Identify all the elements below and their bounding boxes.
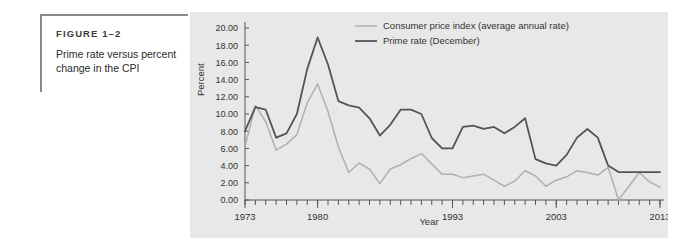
legend-label: Prime rate (December) [383,35,480,46]
y-axis-tick-label: 2.00 [220,178,238,188]
figure-number-label: FIGURE 1–2 [56,28,194,39]
y-axis-tick-label: 18.00 [215,41,238,51]
caption-left-rule [40,14,42,92]
x-axis-title: Year [190,216,668,227]
figure-title-text: Prime rate versus percent change in the … [56,47,194,75]
y-axis-tick-label: 6.00 [220,144,238,154]
figure-container: FIGURE 1–2 Prime rate versus percent cha… [0,0,690,252]
y-axis-tick-label: 8.00 [220,127,238,137]
y-axis-title: Percent [195,36,206,96]
chart-panel: 0.002.004.006.008.0010.0012.0014.0016.00… [190,12,668,238]
y-axis-tick-label: 14.00 [215,75,238,85]
series-line [245,84,660,200]
y-axis-tick-label: 10.00 [215,109,238,119]
legend-label: Consumer price index (average annual rat… [383,20,569,31]
y-axis-tick-label: 4.00 [220,161,238,171]
y-axis-tick-label: 0.00 [220,195,238,205]
y-axis-tick-label: 16.00 [215,58,238,68]
y-axis-tick-label: 12.00 [215,92,238,102]
y-axis-tick-label: 20.00 [215,23,238,33]
caption-top-rule [40,14,188,16]
line-chart-svg: 0.002.004.006.008.0010.0012.0014.0016.00… [190,12,668,238]
